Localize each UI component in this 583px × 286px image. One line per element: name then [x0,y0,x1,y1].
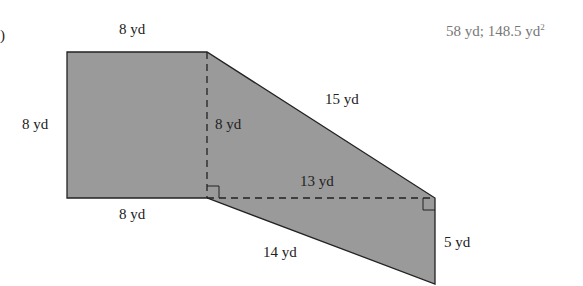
shaded-shape [67,52,435,284]
answer-value: 58 yd; 148.5 yd [446,23,540,39]
label-left: 8 yd [22,117,48,132]
answer-text: 58 yd; 148.5 yd2 [446,23,545,39]
label-slant-top: 15 yd [325,92,359,107]
label-right-side: 5 yd [444,235,470,250]
answer-exponent: 2 [540,22,545,32]
label-dashed-horizontal: 13 yd [300,174,334,189]
label-slant-bottom: 14 yd [263,245,297,260]
label-inner-height: 8 yd [215,117,241,132]
label-top: 8 yd [119,22,145,37]
label-bottom-left: 8 yd [119,207,145,222]
problem-label: ) [0,28,5,43]
